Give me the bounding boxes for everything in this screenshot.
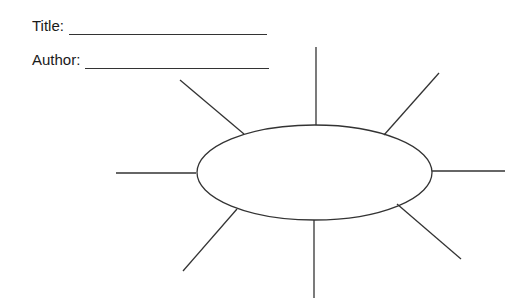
spoke-bottom-right[interactable] — [397, 204, 461, 259]
spoke-top-right[interactable] — [384, 73, 439, 135]
center-oval[interactable] — [197, 125, 432, 220]
spoke-bottom-left[interactable] — [183, 209, 237, 271]
web-graphic-organizer — [0, 0, 529, 303]
spoke-top-left[interactable] — [180, 80, 244, 134]
